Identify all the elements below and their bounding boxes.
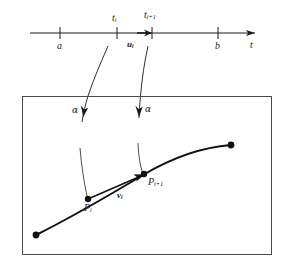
curve-point-label-P-i-sub: i — [90, 206, 92, 213]
tick-label-b: b — [215, 41, 220, 51]
plane-box — [23, 97, 272, 255]
tick-label-t-i-plus-1: ti+1 — [144, 10, 156, 21]
curve-point-label-P-i: Pi — [84, 203, 92, 214]
curve-path — [36, 145, 231, 235]
alpha-guide-left-to-p-i — [80, 148, 87, 196]
curve-point-label-P-i-plus-1-sub: i+1 — [154, 180, 163, 187]
alpha-label-right: α — [145, 105, 151, 114]
t-axis-group — [30, 27, 255, 39]
vector-v-i-shaft — [88, 176, 141, 199]
alpha-arrow-left-shaft — [88, 46, 108, 96]
alpha-arrow-right-head — [135, 106, 142, 117]
curve-group — [33, 142, 235, 239]
figure-canvas — [0, 0, 284, 270]
parametrization-figure: t a ti ti+1 b ui α α Pi Pi+1 vi — [0, 0, 284, 270]
plane-box-group — [23, 97, 272, 255]
curve-end-dot — [228, 142, 235, 149]
vector-label-v-i: vi — [117, 191, 123, 201]
curve-point-label-P-i-plus-1: Pi+1 — [148, 177, 163, 188]
alpha-label-left: α — [72, 106, 78, 115]
alpha-mapping-group — [80, 46, 148, 196]
alpha-arrow-right-shaft — [141, 46, 149, 96]
t-axis-variable-label: t — [250, 40, 253, 50]
alpha-guide-right-to-p-i-plus-1 — [138, 143, 143, 174]
sample-point-label-u-i-sub: i — [132, 43, 134, 49]
tick-label-t-i: ti — [112, 13, 117, 24]
tick-label-t-i-plus-1-sub: i+1 — [147, 13, 156, 20]
curve-start-dot — [33, 232, 40, 239]
tick-label-a: a — [57, 41, 62, 51]
sample-point-label-u-i: ui — [127, 40, 134, 50]
vector-label-v-i-sub: i — [121, 194, 123, 200]
tick-label-t-i-sub: i — [115, 16, 117, 23]
